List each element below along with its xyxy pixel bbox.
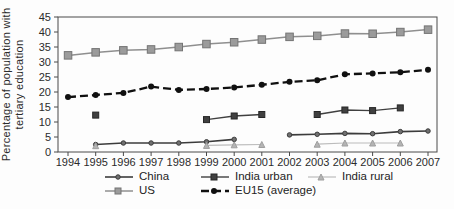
x-tick-label: 1994 xyxy=(56,156,80,168)
data-point-marker xyxy=(231,85,237,91)
data-point-marker xyxy=(148,84,154,90)
data-point-marker xyxy=(398,129,403,134)
data-point-marker xyxy=(287,133,292,138)
data-point-marker xyxy=(115,188,121,194)
y-tick-label: 5 xyxy=(45,131,51,143)
data-point-marker xyxy=(315,132,320,137)
x-tick-label: 2005 xyxy=(360,156,384,168)
data-point-marker xyxy=(397,69,403,75)
data-point-marker xyxy=(204,117,210,123)
data-point-marker xyxy=(121,141,126,146)
y-axis-label: tertiary education xyxy=(13,40,25,130)
data-point-marker xyxy=(175,43,183,51)
data-point-marker xyxy=(176,87,182,93)
x-tick-label: 2004 xyxy=(333,156,357,168)
legend-label: China xyxy=(139,170,169,183)
y-tick-label: 10 xyxy=(39,116,51,128)
data-point-marker xyxy=(342,71,348,77)
x-tick-label: 1997 xyxy=(139,156,163,168)
data-point-marker xyxy=(211,174,217,180)
data-point-marker xyxy=(177,141,182,146)
x-tick-label: 2001 xyxy=(250,156,274,168)
y-tick-label: 30 xyxy=(39,56,51,68)
legend-item-eu15-average: EU15 (average) xyxy=(200,184,307,197)
x-tick-label: 1999 xyxy=(194,156,218,168)
legend-swatch xyxy=(104,172,134,182)
data-point-marker xyxy=(397,105,403,111)
plot-frame xyxy=(58,17,437,152)
data-point-marker xyxy=(203,40,211,48)
data-point-marker xyxy=(287,79,293,85)
y-tick-label: 40 xyxy=(39,26,51,38)
x-tick-label: 1995 xyxy=(83,156,107,168)
y-tick-label: 25 xyxy=(39,71,51,83)
data-point-marker xyxy=(231,113,237,119)
data-point-marker xyxy=(65,94,71,100)
x-tick-label: 2007 xyxy=(416,156,440,168)
data-point-marker xyxy=(425,67,431,73)
legend-swatch xyxy=(200,186,230,196)
data-point-marker xyxy=(341,30,349,38)
legend-item-india-rural: India rural xyxy=(307,170,393,183)
data-point-marker xyxy=(314,32,322,40)
data-point-marker xyxy=(259,82,265,88)
data-point-marker xyxy=(314,112,320,118)
y-tick-label: 35 xyxy=(39,41,51,53)
chart-legend: ChinaIndia urbanIndia ruralUSEU15 (avera… xyxy=(104,170,393,197)
data-point-marker xyxy=(424,26,432,34)
legend-item-india-urban: India urban xyxy=(200,170,307,183)
chart-canvas: 0510152025303540451994199519961997199819… xyxy=(0,0,454,168)
y-axis-label: Percentage of population with xyxy=(0,8,12,162)
y-tick-label: 45 xyxy=(39,11,51,23)
data-point-marker xyxy=(147,46,155,54)
data-point-marker xyxy=(204,86,210,92)
data-point-marker xyxy=(258,36,266,44)
legend-swatch xyxy=(104,186,134,196)
y-tick-label: 0 xyxy=(45,146,51,158)
x-tick-label: 2000 xyxy=(222,156,246,168)
data-point-marker xyxy=(92,49,100,57)
y-tick-label: 15 xyxy=(39,101,51,113)
data-point-marker xyxy=(93,92,99,98)
data-point-marker xyxy=(211,188,217,194)
data-point-marker xyxy=(343,131,348,136)
data-point-marker xyxy=(426,129,431,134)
data-point-marker xyxy=(370,70,376,76)
legend-item-us: US xyxy=(104,184,200,197)
data-point-marker xyxy=(369,30,377,38)
legend-label: India urban xyxy=(235,170,293,183)
data-point-marker xyxy=(93,112,99,118)
data-point-marker xyxy=(120,90,126,96)
tertiary-education-chart: 0510152025303540451994199519961997199819… xyxy=(0,0,454,209)
x-tick-label: 2006 xyxy=(388,156,412,168)
legend-swatch xyxy=(307,172,337,182)
data-point-marker xyxy=(370,131,375,136)
legend-swatch xyxy=(200,172,230,182)
data-point-marker xyxy=(286,33,294,41)
data-point-marker xyxy=(149,141,154,146)
x-tick-label: 2003 xyxy=(305,156,329,168)
data-point-marker xyxy=(116,174,121,179)
legend-label: India rural xyxy=(342,170,393,183)
data-point-marker xyxy=(342,107,348,113)
data-point-marker xyxy=(370,108,376,114)
legend-label: EU15 (average) xyxy=(235,184,316,197)
data-point-marker xyxy=(120,47,128,55)
legend-item-china: China xyxy=(104,170,200,183)
data-point-marker xyxy=(64,52,72,60)
x-tick-label: 1998 xyxy=(167,156,191,168)
data-point-marker xyxy=(397,28,405,36)
data-point-marker xyxy=(314,77,320,83)
x-tick-label: 1996 xyxy=(111,156,135,168)
data-point-marker xyxy=(259,112,265,118)
data-point-marker xyxy=(230,39,238,47)
x-tick-label: 2002 xyxy=(277,156,301,168)
legend-label: US xyxy=(139,184,155,197)
y-tick-label: 20 xyxy=(39,86,51,98)
